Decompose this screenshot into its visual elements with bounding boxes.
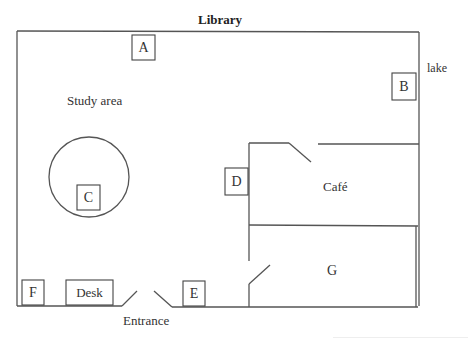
cafe-g-divider xyxy=(249,225,418,226)
entrance-door-right xyxy=(154,291,172,307)
marker-label-f: F xyxy=(22,280,44,305)
cafe-label: Café xyxy=(323,180,348,193)
room-g-label: G xyxy=(327,264,337,278)
marker-label-d: D xyxy=(225,168,248,195)
marker-label-e: E xyxy=(183,281,205,306)
top-wall xyxy=(17,31,419,32)
marker-label-a: A xyxy=(132,35,155,60)
outer-walls xyxy=(17,31,419,307)
entrance-door-left xyxy=(122,291,137,306)
lake-label: lake xyxy=(427,62,447,74)
cafe-door xyxy=(289,143,311,162)
marker-label-b: B xyxy=(392,73,416,100)
study-area-label: Study area xyxy=(67,94,122,107)
marker-label-c: C xyxy=(77,185,100,210)
library-title: Library xyxy=(198,13,242,26)
entrance-doors xyxy=(122,291,172,307)
desk-label: Desk xyxy=(66,280,113,305)
faint-bottom-line xyxy=(333,337,468,338)
entrance-label: Entrance xyxy=(123,314,169,327)
g-door xyxy=(249,265,270,284)
